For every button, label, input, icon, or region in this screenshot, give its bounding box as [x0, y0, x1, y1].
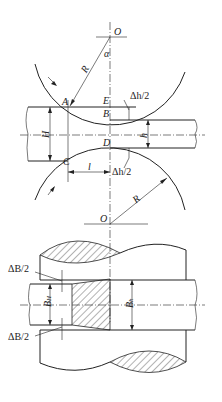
label-alpha: α: [104, 48, 110, 59]
label-dB2-top: ΔB/2: [8, 263, 29, 274]
h-arrow-top-icon: [146, 120, 150, 125]
H-arrow-top-icon: [48, 107, 52, 113]
label-H: H: [40, 130, 51, 139]
label-C: C: [63, 156, 70, 167]
label-h: h: [138, 133, 149, 138]
label-A: A: [61, 96, 69, 107]
label-O-top: O: [114, 26, 121, 37]
label-BH: BH: [42, 295, 53, 307]
label-dh2-top: Δh/2: [130, 90, 149, 101]
rotation-arrow-top-icon: [51, 81, 57, 86]
BH-arrow-top-icon: [48, 284, 52, 289]
Bh-arrow-bottom-icon: [130, 325, 134, 330]
bottom-view: BH Bh ΔB/2 ΔB/2: [8, 241, 205, 373]
l-arrow-right-icon: [104, 170, 110, 174]
top-view: O α R A E B Δh/2 H: [20, 22, 205, 322]
H-arrow-bottom-icon: [48, 155, 52, 161]
strip-exit-break: [195, 120, 197, 148]
top-roll-profile: [120, 244, 186, 253]
label-O-bottom: O: [100, 213, 107, 224]
top-roll-hatched-bulge: [40, 241, 120, 263]
Bh-arrow-top-icon: [130, 280, 134, 285]
h-arrow-bottom-icon: [146, 143, 150, 148]
label-D: D: [102, 137, 111, 148]
label-dB2-bottom: ΔB/2: [8, 331, 29, 342]
label-R-bottom: R: [129, 193, 142, 206]
strip-entry-break: [26, 107, 28, 161]
label-E: E: [102, 95, 109, 106]
bottom-roll-hatched-bulge: [110, 351, 186, 373]
radius-arrow-icon: [70, 99, 75, 106]
label-dh2-bottom: Δh/2: [112, 166, 131, 177]
entry-left-break: [29, 284, 31, 325]
rolling-diagram: O α R A E B Δh/2 H: [0, 0, 222, 402]
label-B: B: [103, 108, 109, 119]
BH-arrow-bottom-icon: [48, 320, 52, 325]
hatched-deformation-zone: [72, 279, 110, 330]
bottom-roll-profile: [40, 362, 110, 370]
l-arrow-left-icon: [68, 170, 74, 174]
label-Bh: Bh: [124, 298, 135, 308]
label-l: l: [88, 161, 91, 172]
dh2-top-leader: [124, 100, 129, 110]
dB2-bottom-leader: [35, 327, 62, 336]
